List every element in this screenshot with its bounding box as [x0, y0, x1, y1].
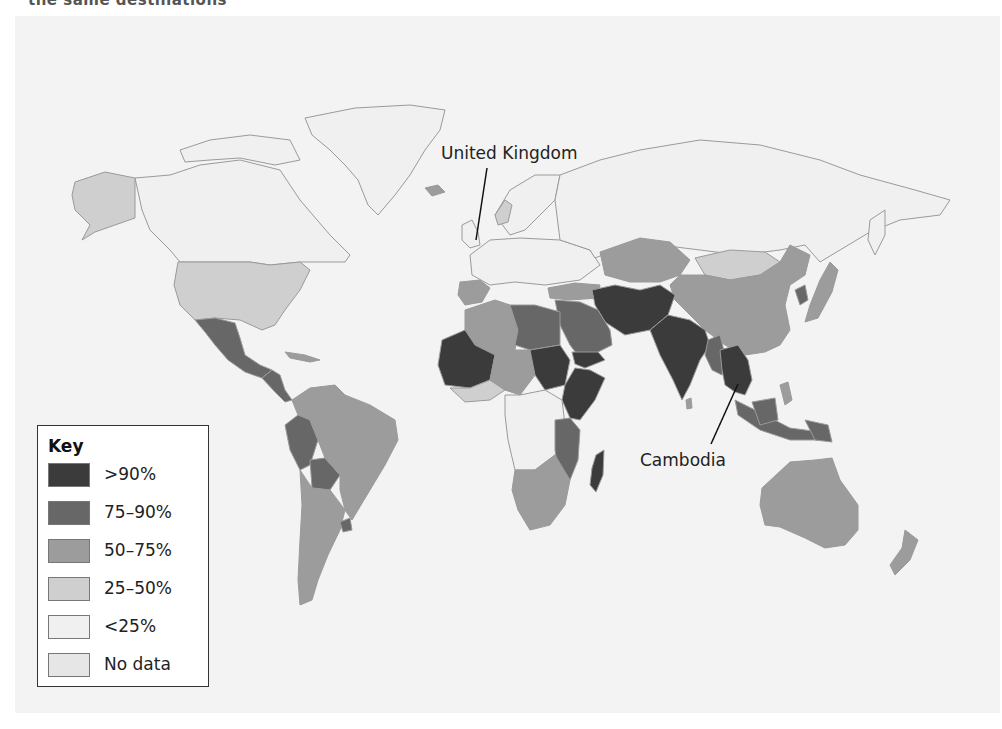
region-ethiopia-somalia — [562, 368, 605, 420]
legend-title: Key — [48, 436, 84, 456]
region-iceland — [425, 185, 445, 196]
legend: Key >90% 75–90% 50–75% 25–50% <25% No da… — [37, 425, 209, 687]
region-korea — [795, 285, 808, 305]
swatch-gt90 — [48, 463, 90, 487]
legend-item: 50–75% — [48, 539, 198, 563]
swatch-no-data — [48, 653, 90, 677]
region-caribbean — [285, 352, 320, 362]
region-alaska — [72, 172, 135, 240]
swatch-25-50 — [48, 577, 90, 601]
swatch-lt25 — [48, 615, 90, 639]
swatch-75-90 — [48, 501, 90, 525]
region-southern-cone — [298, 470, 345, 605]
region-japan — [805, 262, 838, 322]
region-yemen — [572, 352, 605, 368]
uk-leader-line — [476, 168, 487, 240]
region-libya-egypt — [510, 305, 560, 350]
legend-label: No data — [104, 654, 171, 674]
legend-label: >90% — [104, 464, 156, 484]
region-iberia — [458, 280, 490, 305]
legend-item: <25% — [48, 615, 198, 639]
region-madagascar — [590, 450, 604, 492]
region-sri-lanka — [686, 398, 692, 409]
label-cambodia: Cambodia — [640, 450, 726, 470]
legend-label: 25–50% — [104, 578, 172, 598]
legend-item: 25–50% — [48, 577, 198, 601]
region-canada — [135, 160, 350, 265]
legend-label: <25% — [104, 616, 156, 636]
legend-item: 75–90% — [48, 501, 198, 525]
region-sudan — [530, 345, 570, 390]
legend-item: >90% — [48, 463, 198, 487]
region-india — [650, 315, 710, 400]
region-central-america — [262, 370, 292, 402]
region-philippines — [780, 382, 792, 405]
region-new-zealand — [890, 530, 918, 575]
region-australia — [760, 458, 858, 548]
swatch-50-75 — [48, 539, 90, 563]
legend-label: 75–90% — [104, 502, 172, 522]
label-united-kingdom: United Kingdom — [441, 143, 577, 163]
region-greenland — [305, 105, 445, 215]
legend-item: No data — [48, 653, 198, 677]
cambodia-leader-line — [711, 384, 738, 444]
region-russia — [555, 140, 950, 262]
legend-label: 50–75% — [104, 540, 172, 560]
region-usa — [174, 262, 310, 330]
